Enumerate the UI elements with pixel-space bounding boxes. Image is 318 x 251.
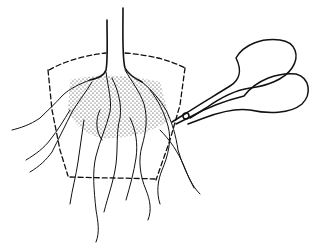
scissors (172, 40, 308, 124)
soil-rootball-stippled (68, 75, 170, 138)
plant-stem (90, 8, 142, 82)
root-pruning-illustration (0, 0, 318, 251)
